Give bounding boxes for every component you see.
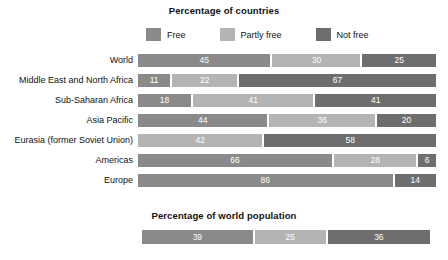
legend-swatch-not-free xyxy=(316,28,331,41)
population-bar-track: 392536 xyxy=(142,230,430,244)
bar-segment-value: 25 xyxy=(395,54,404,67)
bar-segment-partly-free: 22 xyxy=(172,74,237,87)
bar-segment-value: 42 xyxy=(195,134,204,147)
bar-segment-free: 45 xyxy=(138,54,270,67)
chart-row-track: 4258 xyxy=(138,134,436,147)
bar-segment-value: 41 xyxy=(371,94,380,107)
bar-segment-free: 66 xyxy=(138,154,332,167)
bar-segment-partly-free: 36 xyxy=(269,114,375,127)
bar-segment-value: 36 xyxy=(374,230,383,244)
bar-segment-partly-free: 41 xyxy=(193,94,314,107)
bar-segment-value: 39 xyxy=(193,230,202,244)
chart-row-label: Middle East and North Africa xyxy=(0,74,138,87)
bar-segment-value: 86 xyxy=(261,174,270,187)
bar-segment-free: 11 xyxy=(138,74,170,87)
bar-segment-not-free: 6 xyxy=(418,154,436,167)
bar-segment-free: 86 xyxy=(138,174,393,187)
legend-item: Free xyxy=(146,28,186,41)
chart-row: Sub-Saharan Africa184141 xyxy=(0,94,448,107)
chart-row: World453025 xyxy=(0,54,448,67)
chart-row-track: 453025 xyxy=(138,54,436,67)
chart-row-track: 66286 xyxy=(138,154,436,167)
bar-segment-value: 41 xyxy=(248,94,257,107)
bar-segment-value: 22 xyxy=(200,74,209,87)
chart-title-countries: Percentage of countries xyxy=(0,5,448,16)
chart-row: Asia Pacific443620 xyxy=(0,114,448,127)
chart-legend: FreePartly freeNot free xyxy=(146,28,444,41)
bar-segment-not-free: 41 xyxy=(315,94,436,107)
bar-segment-partly-free: 30 xyxy=(272,54,360,67)
bar-segment-value: 45 xyxy=(199,54,208,67)
bar-segment-not-free: 58 xyxy=(264,134,436,147)
chart-row: Middle East and North Africa112267 xyxy=(0,74,448,87)
legend-swatch-free xyxy=(146,28,161,41)
legend-swatch-partly-free xyxy=(220,28,235,41)
countries-bar-rows: World453025Middle East and North Africa1… xyxy=(0,54,448,194)
bar-segment-value: 58 xyxy=(345,134,354,147)
bar-segment-free: 39 xyxy=(142,230,253,244)
chart-row-track: 8614 xyxy=(138,174,436,187)
chart-row-label: Europe xyxy=(0,174,138,187)
bar-segment-value: 28 xyxy=(370,154,379,167)
bar-segment-value: 11 xyxy=(150,74,159,87)
bar-segment-not-free: 25 xyxy=(362,54,436,67)
chart-row-track: 112267 xyxy=(138,74,436,87)
chart-row: Eurasia (former Soviet Union)4258 xyxy=(0,134,448,147)
legend-item: Partly free xyxy=(220,28,282,41)
bar-segment-value: 44 xyxy=(198,114,207,127)
bar-segment-partly-free: 28 xyxy=(334,154,416,167)
bar-segment-value: 67 xyxy=(333,74,342,87)
bar-segment-not-free: 36 xyxy=(328,230,430,244)
legend-item-label: Not free xyxy=(337,30,369,40)
bar-segment-not-free: 67 xyxy=(239,74,436,87)
bar-segment-value: 66 xyxy=(230,154,239,167)
chart-row-label: Eurasia (former Soviet Union) xyxy=(0,134,138,147)
chart-row: Americas66286 xyxy=(0,154,448,167)
bar-segment-value: 6 xyxy=(425,154,430,167)
bar-segment-value: 20 xyxy=(402,114,411,127)
bar-segment-value: 18 xyxy=(160,94,169,107)
bar-segment-free: 18 xyxy=(138,94,191,107)
bar-segment-partly-free: 25 xyxy=(255,230,326,244)
bar-segment-not-free: 14 xyxy=(395,174,436,187)
legend-item-label: Free xyxy=(167,30,186,40)
chart-row-label: Americas xyxy=(0,154,138,167)
chart-row-label: Asia Pacific xyxy=(0,114,138,127)
bar-segment-value: 14 xyxy=(411,174,420,187)
chart-row: Europe8614 xyxy=(0,174,448,187)
legend-item: Not free xyxy=(316,28,369,41)
bar-segment-value: 36 xyxy=(318,114,327,127)
chart-row-label: Sub-Saharan Africa xyxy=(0,94,138,107)
chart-row-track: 443620 xyxy=(138,114,436,127)
bar-segment-value: 25 xyxy=(286,230,295,244)
bar-segment-free: 44 xyxy=(138,114,267,127)
chart-title-population: Percentage of world population xyxy=(0,210,448,221)
bar-segment-partly-free: 42 xyxy=(138,134,262,147)
bar-segment-not-free: 20 xyxy=(377,114,436,127)
chart-row-track: 184141 xyxy=(138,94,436,107)
bar-segment-value: 30 xyxy=(312,54,321,67)
chart-row-label: World xyxy=(0,54,138,67)
legend-item-label: Partly free xyxy=(241,30,282,40)
